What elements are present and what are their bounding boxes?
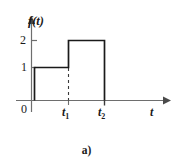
x-tick-label-t2-subscript: 2 <box>101 112 105 121</box>
y-tick-label-1: 1 <box>21 61 27 73</box>
x-axis-label: t <box>150 106 153 118</box>
x-tick-label-t1-subscript: 1 <box>65 112 69 121</box>
x-tick-label-t1: t1 <box>62 106 69 121</box>
step-function-curve <box>35 41 105 101</box>
x-tick-label-t2: t2 <box>98 106 105 121</box>
step-function-plot <box>0 0 173 167</box>
figure-caption: a) <box>0 144 173 156</box>
origin-label: 0 <box>21 103 27 115</box>
y-axis-label: f(t) <box>28 15 44 28</box>
figure-container: f(t) t 2 1 0 t1 t2 a) <box>0 0 173 167</box>
y-tick-label-2: 2 <box>20 34 26 46</box>
x-axis-arrow-icon <box>163 97 171 105</box>
